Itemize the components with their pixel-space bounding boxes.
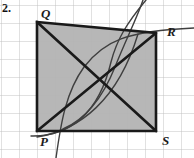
geometry-figure: 2. Q R P S — [0, 0, 194, 158]
vertex-label-R: R — [167, 25, 176, 38]
vertex-label-P: P — [40, 135, 48, 148]
vertex-label-Q: Q — [41, 7, 50, 20]
vertex-label-S: S — [162, 134, 169, 147]
